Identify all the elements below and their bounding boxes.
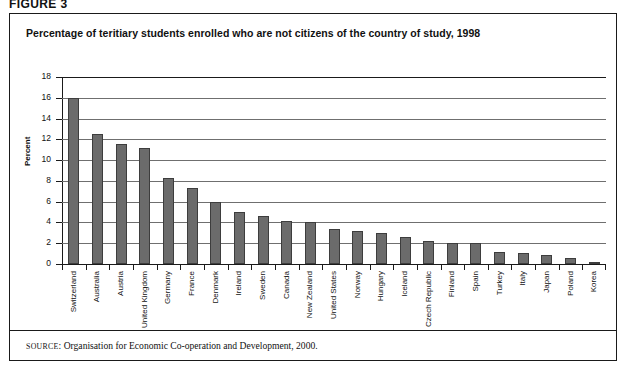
x-label-cell: Japan bbox=[535, 270, 559, 334]
bar-cell bbox=[559, 77, 583, 264]
x-tick-label-united-kingdom: United Kingdom bbox=[141, 271, 149, 328]
x-label-cell: Germany bbox=[157, 270, 181, 334]
y-tick-label-16: 16 bbox=[29, 93, 51, 102]
bar-korea bbox=[589, 262, 600, 264]
bar-ireland bbox=[234, 212, 245, 264]
figure-container: FIGURE 3 Percentage of teritiary student… bbox=[0, 0, 629, 372]
bar-cell bbox=[133, 77, 157, 264]
x-tick-label-czech-republic: Czech Republic bbox=[425, 271, 433, 327]
bar-hungary bbox=[376, 233, 387, 264]
bar-cell bbox=[441, 77, 465, 264]
x-tick-label-spain: Spain bbox=[472, 271, 480, 291]
y-tick-label-8: 8 bbox=[29, 176, 51, 185]
source-text: : Organisation for Economic Co-operation… bbox=[59, 340, 318, 351]
bar-cell bbox=[204, 77, 228, 264]
x-label-cell: United States bbox=[322, 270, 346, 334]
bar-germany bbox=[163, 178, 174, 264]
x-label-cell: Italy bbox=[511, 270, 535, 334]
x-label-cell: Poland bbox=[559, 270, 583, 334]
x-label-cell: Hungary bbox=[370, 270, 394, 334]
x-label-cell: France bbox=[180, 270, 204, 334]
bar-switzerland bbox=[68, 98, 79, 264]
bar-cell bbox=[464, 77, 488, 264]
bar-united-states bbox=[329, 229, 340, 264]
x-tick-label-france: France bbox=[188, 271, 196, 296]
x-tick-label-iceland: Iceland bbox=[401, 271, 409, 297]
bar-norway bbox=[352, 231, 363, 264]
bar-cell bbox=[488, 77, 512, 264]
bar-turkey bbox=[494, 252, 505, 264]
x-tick-label-finland: Finland bbox=[448, 271, 456, 297]
x-tick-label-sweden: Sweden bbox=[259, 271, 267, 300]
x-tick-label-australia: Australia bbox=[93, 271, 101, 302]
x-label-cell: Austria bbox=[109, 270, 133, 334]
x-label-cell: Australia bbox=[86, 270, 110, 334]
bar-cell bbox=[511, 77, 535, 264]
x-tick-label-turkey: Turkey bbox=[496, 271, 504, 295]
x-tick-label-united-states: United States bbox=[330, 271, 338, 319]
bar-australia bbox=[92, 134, 103, 264]
bar-cell bbox=[228, 77, 252, 264]
source-prefix: SOURCE bbox=[26, 342, 59, 351]
bar-cell bbox=[86, 77, 110, 264]
bar-cell bbox=[299, 77, 323, 264]
bar-canada bbox=[281, 221, 292, 264]
x-label-cell: Canada bbox=[275, 270, 299, 334]
bar-czech-republic bbox=[423, 241, 434, 264]
x-tick-label-italy: Italy bbox=[519, 271, 527, 286]
bar-cell bbox=[417, 77, 441, 264]
x-tick-label-hungary: Hungary bbox=[377, 271, 385, 301]
source-note: SOURCE: Organisation for Economic Co-ope… bbox=[26, 340, 318, 351]
bar-cell bbox=[322, 77, 346, 264]
x-tick-label-denmark: Denmark bbox=[212, 271, 220, 303]
x-tick-label-germany: Germany bbox=[164, 271, 172, 304]
bar-cell bbox=[370, 77, 394, 264]
x-label-cell: Sweden bbox=[251, 270, 275, 334]
bar-cell bbox=[157, 77, 181, 264]
x-label-cell: Finland bbox=[441, 270, 465, 334]
x-label-cell: United Kingdom bbox=[133, 270, 157, 334]
source-divider bbox=[10, 330, 616, 331]
bar-sweden bbox=[258, 216, 269, 264]
bar-united-kingdom bbox=[139, 148, 150, 264]
y-tick-label-6: 6 bbox=[29, 197, 51, 206]
y-tick-label-14: 14 bbox=[29, 114, 51, 123]
x-tick-label-norway: Norway bbox=[354, 271, 362, 298]
bar-cell bbox=[582, 77, 606, 264]
plot-area bbox=[62, 77, 606, 264]
x-tick-label-poland: Poland bbox=[567, 271, 575, 296]
figure-panel: Percentage of teritiary students enrolle… bbox=[9, 13, 617, 361]
bar-cell bbox=[180, 77, 204, 264]
x-tick-label-ireland: Ireland bbox=[235, 271, 243, 295]
bar-france bbox=[187, 188, 198, 264]
x-label-cell: Turkey bbox=[488, 270, 512, 334]
x-label-cell: Ireland bbox=[228, 270, 252, 334]
y-tick-label-10: 10 bbox=[29, 155, 51, 164]
x-tick-label-austria: Austria bbox=[117, 271, 125, 296]
x-tick-label-new-zealand: New Zealand bbox=[306, 271, 314, 318]
bar-cell bbox=[275, 77, 299, 264]
bar-poland bbox=[565, 258, 576, 264]
x-tick-label-switzerland: Switzerland bbox=[70, 271, 78, 312]
y-tick-label-18: 18 bbox=[29, 72, 51, 81]
bar-iceland bbox=[400, 237, 411, 264]
bar-new-zealand bbox=[305, 222, 316, 264]
x-label-cell: Denmark bbox=[204, 270, 228, 334]
bar-denmark bbox=[210, 202, 221, 264]
x-axis-labels: SwitzerlandAustraliaAustriaUnited Kingdo… bbox=[62, 270, 606, 334]
plot-wrapper: Percent 024681012141618 SwitzerlandAustr… bbox=[10, 14, 618, 334]
y-tick-label-2: 2 bbox=[29, 238, 51, 247]
x-label-cell: Korea bbox=[582, 270, 606, 334]
y-tick-label-4: 4 bbox=[29, 217, 51, 226]
x-label-cell: Norway bbox=[346, 270, 370, 334]
bar-italy bbox=[518, 253, 529, 264]
bar-cell bbox=[109, 77, 133, 264]
x-label-cell: New Zealand bbox=[299, 270, 323, 334]
bar-cell bbox=[393, 77, 417, 264]
bar-spain bbox=[470, 243, 481, 264]
x-tick-label-korea: Korea bbox=[590, 271, 598, 292]
bar-austria bbox=[116, 144, 127, 265]
x-label-cell: Iceland bbox=[393, 270, 417, 334]
x-label-cell: Spain bbox=[464, 270, 488, 334]
bar-finland bbox=[447, 243, 458, 264]
